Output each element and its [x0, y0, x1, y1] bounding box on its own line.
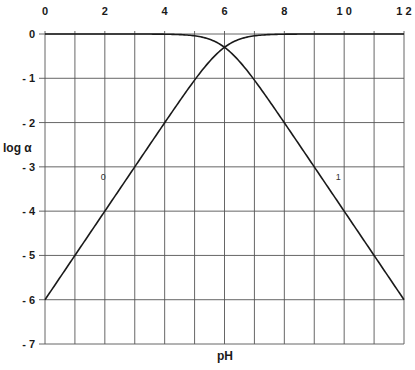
y-tick-label: - 4 [22, 205, 36, 217]
x-tick-label: 4 [162, 5, 169, 17]
x-axis-label: pH [217, 349, 233, 363]
x-tick-label: 2 [102, 5, 108, 17]
y-tick-label: - 1 [22, 72, 35, 84]
y-axis-label: log α [3, 141, 32, 155]
y-tick-label: 0 [29, 28, 35, 40]
x-tick-label: 0 [42, 5, 48, 17]
y-tick-label: - 5 [22, 249, 35, 261]
x-tick-label: 6 [221, 5, 227, 17]
y-axis-ticks: 0- 1- 2- 3- 4- 5- 6- 7 [22, 28, 36, 350]
x-tick-label: 1 2 [396, 5, 411, 17]
y-tick-label: - 2 [22, 117, 35, 129]
curve-label: 1 [336, 172, 341, 182]
x-axis-ticks: 024681 01 2 [42, 5, 412, 17]
curve-labels: 01 [101, 172, 341, 182]
curve-label: 0 [101, 172, 106, 182]
y-tick-label: - 7 [22, 338, 35, 350]
y-tick-label: - 3 [22, 161, 35, 173]
x-tick-label: 1 0 [337, 5, 352, 17]
y-tick-label: - 6 [22, 294, 35, 306]
grid [39, 31, 404, 344]
chart-canvas: 024681 01 2 0- 1- 2- 3- 4- 5- 6- 7 01 pH… [0, 0, 415, 370]
x-tick-label: 8 [281, 5, 287, 17]
